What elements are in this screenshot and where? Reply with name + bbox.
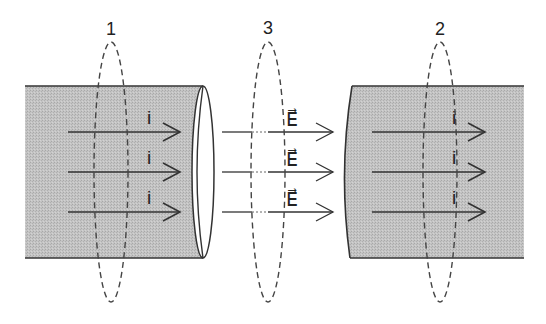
field-arrow	[222, 163, 333, 181]
field-arrow	[222, 203, 333, 221]
surface-labels: 1 3 2	[106, 18, 445, 39]
current-label: i	[147, 187, 151, 208]
surface-3-label: 3	[263, 18, 273, 38]
left-plate-face	[192, 86, 214, 258]
current-label: i	[452, 147, 456, 168]
surface-2-label: 2	[435, 19, 445, 39]
current-label: i	[452, 187, 456, 208]
capacitor-field-diagram: i i i E⃗ E⃗ E⃗	[0, 0, 546, 324]
field-label: E⃗	[286, 148, 298, 170]
current-label: i	[147, 147, 151, 168]
gap-field-arrows: E⃗ E⃗ E⃗	[222, 108, 333, 221]
surface-1-label: 1	[106, 19, 116, 39]
field-arrow	[222, 123, 333, 141]
field-label: E⃗	[286, 188, 298, 210]
field-label: E⃗	[286, 108, 298, 130]
current-label: i	[147, 107, 151, 128]
